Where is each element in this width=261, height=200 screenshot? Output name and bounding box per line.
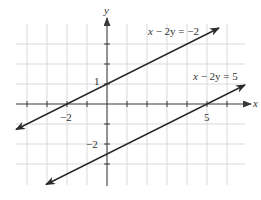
axes xyxy=(16,18,251,186)
y-tick-label-neg2: −2 xyxy=(86,138,98,150)
y-tick-label-1: 1 xyxy=(94,75,100,87)
equation-label-line1: x − 2y = −2 xyxy=(147,25,199,37)
line-x-minus-2y-eq-neg2 xyxy=(16,28,219,130)
y-axis-label: y xyxy=(103,4,109,16)
equation-label-line2: x − 2y = 5 xyxy=(192,70,238,82)
x-axis-label: x xyxy=(252,97,258,109)
x-tick-label-5: 5 xyxy=(204,111,210,123)
coordinate-plane: x y −2 5 1 −2 x − 2y = −2 x − 2y = 5 xyxy=(0,0,261,200)
x-tick-label-neg2: −2 xyxy=(60,111,72,123)
